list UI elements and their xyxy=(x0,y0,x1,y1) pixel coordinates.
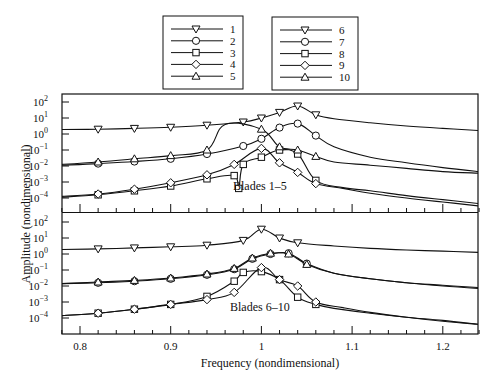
svg-text:4: 4 xyxy=(230,58,236,70)
panel-bottom-annotation: Blades 6–10 xyxy=(230,300,290,314)
svg-text:1: 1 xyxy=(230,23,236,35)
legend: 12345678910 xyxy=(163,16,358,90)
x-tick-label: 0.9 xyxy=(164,340,178,352)
svg-text:6: 6 xyxy=(339,24,345,36)
svg-text:7: 7 xyxy=(339,36,345,48)
x-tick-label: 1.1 xyxy=(345,340,359,352)
y-tick-label: 10−3 xyxy=(28,294,48,308)
square-marker-icon xyxy=(231,278,237,284)
y-tick-label: 101 xyxy=(33,230,48,244)
diamond-marker-icon xyxy=(293,168,301,176)
svg-text:9: 9 xyxy=(339,59,345,71)
y-tick-label: 102 xyxy=(33,214,48,228)
circle-marker-icon xyxy=(301,38,308,45)
square-marker-icon xyxy=(240,269,246,275)
series-1 xyxy=(62,103,479,133)
square-marker-icon xyxy=(302,50,308,56)
series-2 xyxy=(62,120,479,172)
square-marker-icon xyxy=(240,161,246,167)
diamond-marker-icon xyxy=(230,160,238,168)
series-8 xyxy=(62,268,479,324)
legend-box-2: 678910 xyxy=(272,17,358,90)
x-tick-label: 0.8 xyxy=(73,340,87,352)
svg-text:5: 5 xyxy=(230,70,236,82)
y-tick-label: 10−4 xyxy=(28,310,48,324)
series-9 xyxy=(62,263,479,324)
y-tick-label: 102 xyxy=(33,94,48,108)
triangle-up-marker-icon xyxy=(257,125,265,132)
x-tick-label: 1.2 xyxy=(436,340,450,352)
plot-frame xyxy=(62,94,478,334)
y-axis-label: Amplitude (nondimensional) xyxy=(19,145,33,284)
y-tick-label: 100 xyxy=(33,246,48,260)
svg-text:3: 3 xyxy=(230,47,236,59)
diamond-marker-icon xyxy=(257,144,265,152)
circle-marker-icon xyxy=(192,37,199,44)
circle-marker-icon xyxy=(258,135,265,142)
series-3 xyxy=(62,147,479,204)
square-marker-icon xyxy=(193,49,199,55)
legend-box-1: 12345 xyxy=(163,16,243,89)
circle-marker-icon xyxy=(294,120,301,127)
square-marker-icon xyxy=(258,154,264,160)
svg-text:8: 8 xyxy=(339,48,345,60)
series-5 xyxy=(62,123,479,173)
frequency-response-chart: 12345678910 10210110010−110−210−310−4102… xyxy=(0,0,496,392)
svg-text:2: 2 xyxy=(230,35,236,47)
y-tick-label: 100 xyxy=(33,126,48,140)
circle-marker-icon xyxy=(240,142,247,149)
circle-marker-icon xyxy=(312,132,319,139)
svg-text:10: 10 xyxy=(339,71,351,83)
square-marker-icon xyxy=(294,294,300,300)
x-tick-label: 1 xyxy=(259,340,265,352)
diamond-marker-icon xyxy=(230,288,238,296)
square-marker-icon xyxy=(231,172,237,178)
y-tick-label: 101 xyxy=(33,110,48,124)
circle-marker-icon xyxy=(276,124,283,131)
x-axis-label: Frequency (nondimensional) xyxy=(201,356,339,370)
panel-top-annotation: Blades 1–5 xyxy=(233,179,287,193)
